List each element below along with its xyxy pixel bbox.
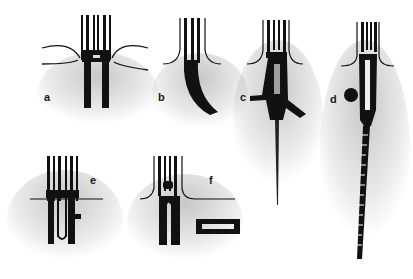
panel-e: e (7, 156, 123, 270)
panel-label-d: d (330, 93, 337, 105)
panel-d: d (320, 22, 410, 260)
figure-canvas: a b c (0, 0, 413, 279)
panel-label-b: b (158, 91, 165, 103)
panel-f: f (127, 156, 243, 270)
panel-label-c: c (240, 91, 246, 103)
panel-label-f: f (209, 174, 213, 186)
panel-label-a: a (44, 91, 51, 103)
panel-label-e: e (90, 174, 96, 186)
panel-a: a (38, 15, 158, 132)
panel-c: c (233, 20, 323, 205)
